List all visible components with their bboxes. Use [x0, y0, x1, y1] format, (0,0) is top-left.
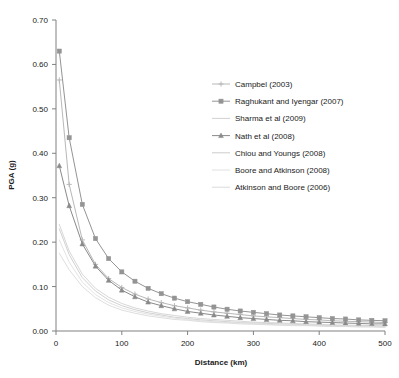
y-axis-tick-label: 0.10 [32, 283, 48, 292]
series-marker [159, 292, 163, 296]
series-marker [199, 302, 203, 306]
legend-item-label: Nath et al (2008) [235, 132, 295, 141]
legend-item-label: Boore and Atkinson (2008) [235, 166, 330, 175]
x-axis-tick-label: 400 [313, 339, 327, 348]
series-marker [93, 236, 97, 240]
y-axis-tick-label: 0.00 [32, 327, 48, 336]
legend-marker [219, 99, 223, 103]
legend-item-label: Raghukant and Iyengar (2007) [235, 97, 344, 106]
series-marker [304, 315, 308, 319]
series-marker [264, 312, 268, 316]
y-axis-tick-label: 0.60 [32, 60, 48, 69]
series-marker [278, 313, 282, 317]
series-marker [67, 136, 71, 140]
legend-item-label: Chiou and Youngs (2008) [235, 149, 326, 158]
x-axis-tick-label: 300 [247, 339, 261, 348]
pga-attenuation-chart: 0.000.100.200.300.400.500.600.70 0100200… [0, 0, 399, 378]
y-axis-tick-label: 0.30 [32, 194, 48, 203]
series-marker [120, 270, 124, 274]
series-marker [251, 310, 255, 314]
series-marker [225, 307, 229, 311]
x-axis-tick-label: 200 [181, 339, 195, 348]
series-marker [172, 296, 176, 300]
x-axis-tick-label: 0 [54, 339, 59, 348]
y-axis-tick-label: 0.70 [32, 16, 48, 25]
series-marker [80, 202, 84, 206]
series-marker [57, 49, 61, 53]
series-marker [186, 300, 190, 304]
legend-item-label: Campbel (2003) [235, 80, 293, 89]
series-marker [133, 279, 137, 283]
x-axis-title: Distance (km) [195, 358, 248, 367]
series-marker [212, 305, 216, 309]
y-axis-tick-label: 0.50 [32, 105, 48, 114]
x-axis-tick-label: 100 [115, 339, 129, 348]
legend-item-label: Sharma et al (2009) [235, 114, 306, 123]
y-axis-tick-label: 0.20 [32, 238, 48, 247]
legend-item-label: Atkinson and Boore (2006) [235, 183, 331, 192]
series-marker [146, 286, 150, 290]
chart-figure: 0.000.100.200.300.400.500.600.70 0100200… [0, 0, 399, 378]
series-marker [291, 314, 295, 318]
y-axis-title: PGA (g) [7, 160, 16, 190]
y-axis-tick-label: 0.40 [32, 149, 48, 158]
series-marker [238, 309, 242, 313]
x-axis-tick-label: 500 [378, 339, 392, 348]
series-marker [107, 256, 111, 260]
